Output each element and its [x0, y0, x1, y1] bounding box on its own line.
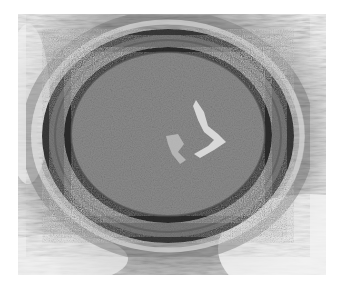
micrograph-image	[18, 14, 326, 275]
artery-cross-section	[18, 14, 326, 275]
